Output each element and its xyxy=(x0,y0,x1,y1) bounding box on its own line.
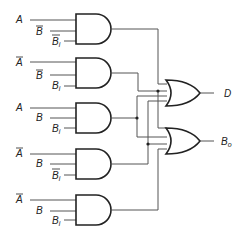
or-gate-bo: Bo xyxy=(166,128,232,154)
or-gate-d: D xyxy=(166,80,231,106)
input-b: B xyxy=(36,158,43,169)
input-a-bar: A xyxy=(15,148,23,159)
input-bi-bar: Bi xyxy=(52,170,61,182)
output-bo: Bo xyxy=(221,136,232,148)
input-a-bar: A xyxy=(15,194,23,205)
and-gate-5: A B Bi xyxy=(15,194,111,227)
and-gate-1: A B Bi xyxy=(15,14,111,48)
input-b: B xyxy=(36,112,43,123)
logic-circuit-diagram: A B Bi A B Bi A B Bi A B Bi xyxy=(0,0,241,241)
input-a: A xyxy=(15,14,23,25)
output-d: D xyxy=(224,88,231,99)
input-bi-bar: Bi xyxy=(52,36,61,48)
input-b-bar: B xyxy=(36,70,43,81)
input-bi: Bi xyxy=(52,123,61,135)
and-gate-2: A B Bi xyxy=(15,57,111,92)
input-b: B xyxy=(36,205,43,216)
input-bi: Bi xyxy=(52,215,61,227)
input-a-bar: A xyxy=(15,57,23,68)
input-bi: Bi xyxy=(52,80,61,92)
and-gate-3: A B Bi xyxy=(15,102,111,135)
and-gate-4: A B Bi xyxy=(15,148,111,182)
wiring xyxy=(111,29,167,210)
input-b-bar: B xyxy=(36,26,43,37)
input-a: A xyxy=(15,102,23,113)
